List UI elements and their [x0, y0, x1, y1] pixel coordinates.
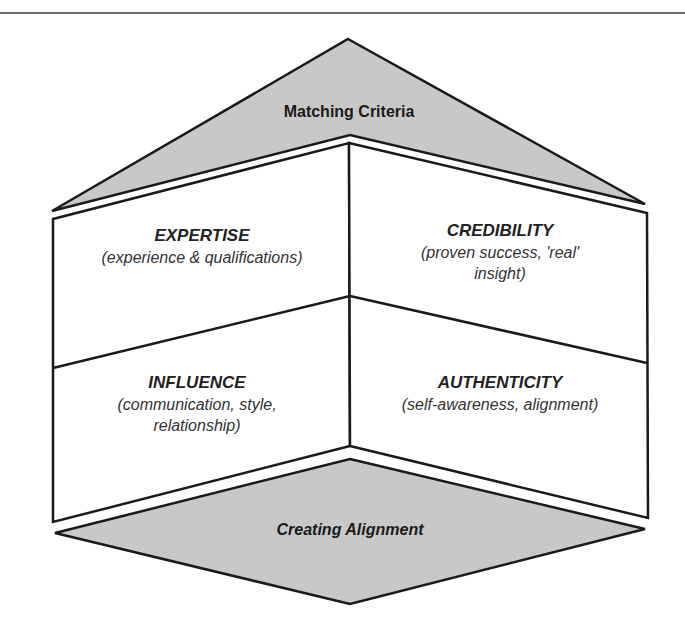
quadrant-subtitle: (communication, style,: [117, 394, 276, 415]
quadrant-influence: INFLUENCE (communication, style, relatio…: [117, 372, 276, 436]
quadrant-title: AUTHENTICITY: [402, 372, 599, 394]
quadrant-credibility: CREDIBILITY (proven success, 'real' insi…: [421, 220, 579, 284]
quadrant-expertise: EXPERTISE (experience & qualifications): [102, 225, 303, 268]
base-label: Creating Alignment: [277, 521, 424, 539]
quadrant-title: INFLUENCE: [117, 372, 276, 394]
quadrant-subtitle: insight): [421, 263, 579, 284]
roof-label: Matching Criteria: [284, 103, 415, 121]
quadrant-subtitle: (experience & qualifications): [102, 247, 303, 268]
quadrant-subtitle: relationship): [117, 415, 276, 436]
quadrant-title: CREDIBILITY: [421, 220, 579, 242]
quadrant-subtitle: (self-awareness, alignment): [402, 394, 599, 415]
quadrant-title: EXPERTISE: [102, 225, 303, 247]
quadrant-authenticity: AUTHENTICITY (self-awareness, alignment): [402, 372, 599, 415]
quadrant-subtitle: (proven success, 'real': [421, 242, 579, 263]
